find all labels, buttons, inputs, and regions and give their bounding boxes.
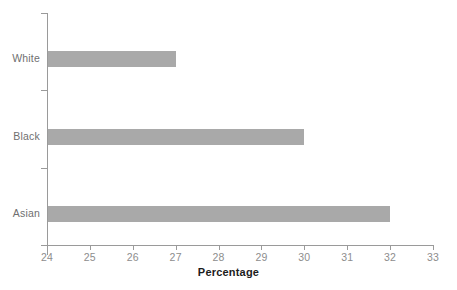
bar bbox=[48, 51, 176, 67]
x-axis-tick bbox=[433, 245, 434, 250]
y-axis-tick bbox=[41, 13, 47, 14]
y-axis-tick bbox=[41, 168, 47, 169]
x-axis-tick bbox=[133, 245, 134, 250]
x-axis-tick-label: 30 bbox=[289, 251, 319, 263]
x-axis-tick bbox=[219, 245, 220, 250]
x-axis-tick bbox=[347, 245, 348, 250]
bar-chart: WhiteBlackAsian 24252627282930313233 Per… bbox=[0, 0, 457, 290]
x-axis-tick-label: 25 bbox=[75, 251, 105, 263]
x-axis-tick bbox=[261, 245, 262, 250]
x-axis-tick bbox=[390, 245, 391, 250]
y-axis-tick bbox=[41, 90, 47, 91]
x-axis-tick-label: 27 bbox=[161, 251, 191, 263]
x-axis-tick-label: 32 bbox=[375, 251, 405, 263]
x-axis-tick-label: 31 bbox=[332, 251, 362, 263]
y-axis-category-label: White bbox=[0, 52, 40, 66]
x-axis-tick bbox=[90, 245, 91, 250]
y-axis-category-label-text: Black bbox=[13, 130, 40, 142]
y-axis-category-label-text: White bbox=[12, 52, 40, 64]
x-axis-tick bbox=[47, 245, 48, 250]
x-axis-tick-label: 29 bbox=[246, 251, 276, 263]
bar bbox=[48, 129, 304, 145]
x-axis-line bbox=[47, 245, 433, 246]
x-axis-tick-label: 24 bbox=[32, 251, 62, 263]
x-axis-tick-label: 28 bbox=[204, 251, 234, 263]
x-axis-tick-label: 33 bbox=[418, 251, 448, 263]
x-axis-tick bbox=[304, 245, 305, 250]
x-axis-title: Percentage bbox=[0, 266, 457, 278]
x-axis-tick-label: 26 bbox=[118, 251, 148, 263]
y-axis-category-label: Black bbox=[0, 130, 40, 144]
x-axis-tick bbox=[176, 245, 177, 250]
y-axis-category-label-text: Asian bbox=[13, 207, 40, 219]
bar bbox=[48, 206, 390, 222]
y-axis-category-label: Asian bbox=[0, 207, 40, 221]
